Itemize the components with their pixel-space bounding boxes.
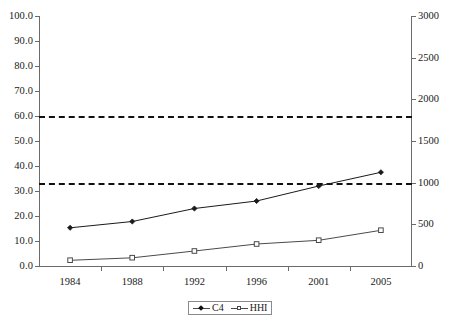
series-c4: [68, 170, 384, 231]
data-point-marker: [130, 255, 135, 260]
legend-label-hhi: HHI: [250, 303, 268, 313]
data-point-marker: [316, 238, 321, 243]
chart-root: 0.010.020.030.040.050.060.070.080.090.01…: [0, 0, 451, 323]
series-hhi: [68, 228, 383, 263]
open-square-marker-icon: [231, 304, 248, 312]
series-overlay: [0, 0, 451, 323]
data-point-marker: [192, 206, 197, 211]
data-point-marker: [378, 170, 383, 175]
data-point-marker: [130, 219, 135, 224]
legend-item-c4: C4: [193, 303, 224, 313]
legend-item-hhi: HHI: [231, 303, 268, 313]
filled-diamond-marker-icon: [193, 304, 210, 312]
data-point-marker: [254, 198, 259, 203]
data-point-marker: [379, 228, 384, 233]
data-point-marker: [192, 249, 197, 254]
data-point-marker: [254, 242, 259, 247]
chart-legend: C4 HHI: [188, 301, 272, 315]
data-point-marker: [316, 183, 321, 188]
legend-label-c4: C4: [212, 303, 224, 313]
data-point-marker: [68, 225, 73, 230]
data-point-marker: [68, 258, 73, 263]
